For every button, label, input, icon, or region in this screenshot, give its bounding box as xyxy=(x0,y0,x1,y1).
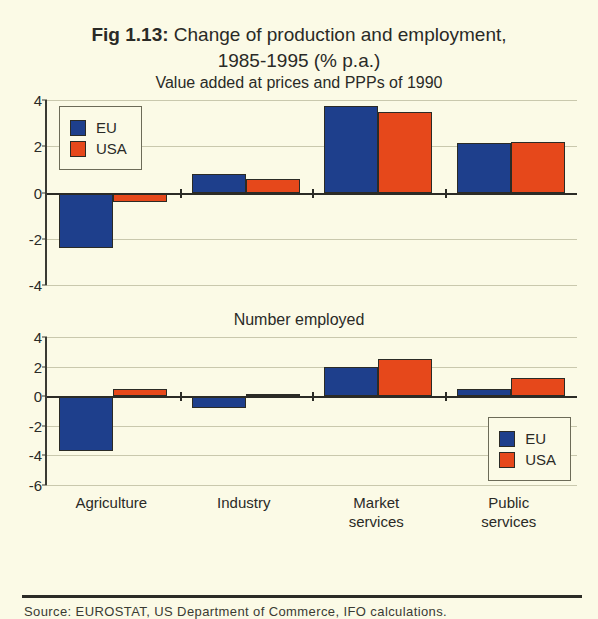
figure-title: Fig 1.13: Change of production and emplo… xyxy=(0,0,598,74)
bar-eu-agriculture xyxy=(59,193,113,249)
chart-title-value-added: Value added at prices and PPPs of 1990 xyxy=(0,74,598,92)
gridline xyxy=(47,239,577,240)
bar-usa-market-services xyxy=(378,112,432,193)
legend-item-usa: USA xyxy=(70,140,127,157)
plot-area-value-added: 420-2-4EUUSA xyxy=(45,100,577,285)
y-axis-tick-mark xyxy=(42,238,47,239)
y-axis-tick-mark xyxy=(42,100,47,101)
chart-panel-employment: Number employed 420-2-4-6EUUSA Agricultu… xyxy=(0,311,598,529)
plot-wrapper-employment: 420-2-4-6EUUSA xyxy=(45,337,575,485)
plot-wrapper-value-added: 420-2-4EUUSA xyxy=(45,100,575,285)
legend-label-usa: USA xyxy=(96,140,127,157)
gridline xyxy=(47,367,577,368)
x-label-market-services: Market services xyxy=(349,493,404,531)
y-axis-tick-mark xyxy=(42,146,47,147)
bar-usa-agriculture xyxy=(113,389,167,396)
x-label-public-services: Public services xyxy=(476,493,542,531)
bar-usa-public-services xyxy=(511,142,565,193)
y-axis-tick-mark xyxy=(42,425,47,426)
chart-legend: EUUSA xyxy=(488,417,571,481)
x-axis-category-labels: AgricultureIndustryMarket servicesPublic… xyxy=(45,485,575,529)
bar-eu-public-services xyxy=(457,389,511,396)
legend-label-eu: EU xyxy=(525,430,546,447)
bar-eu-industry xyxy=(192,174,246,193)
legend-item-eu: EU xyxy=(499,430,556,447)
legend-item-eu: EU xyxy=(70,119,127,136)
bar-usa-market-services xyxy=(378,359,432,396)
legend-item-usa: USA xyxy=(499,451,556,468)
y-axis-tick-mark xyxy=(42,366,47,367)
plot-area-employment: 420-2-4-6EUUSA xyxy=(45,337,577,485)
source-divider xyxy=(22,595,582,598)
x-axis-tick-mark xyxy=(312,392,314,401)
chart-title-employment: Number employed xyxy=(0,311,598,329)
x-label-agriculture: Agriculture xyxy=(75,493,147,512)
legend-label-eu: EU xyxy=(96,119,117,136)
chart-panel-value-added: Value added at prices and PPPs of 1990 4… xyxy=(0,74,598,285)
bar-eu-market-services xyxy=(324,367,378,397)
x-axis-tick-mark xyxy=(445,392,447,401)
y-axis-tick-mark xyxy=(42,285,47,286)
gridline xyxy=(47,337,577,338)
legend-label-usa: USA xyxy=(525,451,556,468)
legend-swatch-usa-icon xyxy=(499,452,515,468)
legend-swatch-eu-icon xyxy=(499,431,515,447)
bar-usa-public-services xyxy=(511,378,565,396)
figure-number: Fig 1.13: xyxy=(91,24,168,45)
chart-legend: EUUSA xyxy=(59,106,142,170)
bar-eu-public-services xyxy=(457,143,511,193)
figure-title-line1: Change of production and employment, xyxy=(174,24,507,45)
gridline xyxy=(47,100,577,101)
x-axis-tick-mark xyxy=(180,189,182,198)
bar-eu-agriculture xyxy=(59,396,113,451)
x-axis-tick-mark xyxy=(312,189,314,198)
x-axis-tick-mark xyxy=(180,392,182,401)
x-axis-tick-mark xyxy=(445,189,447,198)
bar-eu-market-services xyxy=(324,106,378,193)
legend-swatch-usa-icon xyxy=(70,141,86,157)
bar-usa-industry xyxy=(246,179,300,193)
legend-swatch-eu-icon xyxy=(70,120,86,136)
y-axis-tick-mark xyxy=(42,337,47,338)
source-note: Source: EUROSTAT, US Department of Comme… xyxy=(24,604,580,619)
figure-title-line2: 1985-1995 (% p.a.) xyxy=(0,48,598,74)
x-label-industry: Industry xyxy=(217,493,270,512)
y-axis-tick-mark xyxy=(42,455,47,456)
gridline xyxy=(47,285,577,286)
